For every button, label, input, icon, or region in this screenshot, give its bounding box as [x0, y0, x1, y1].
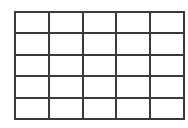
grid-cell [151, 34, 185, 55]
grid-cell [151, 13, 185, 34]
grid-cell [151, 99, 185, 120]
grid-cell [151, 56, 185, 77]
grid-cell [16, 77, 50, 98]
grid-cell [117, 77, 151, 98]
grid-cell [117, 99, 151, 120]
grid-cell [84, 56, 118, 77]
grid-cell [16, 99, 50, 120]
grid-cell [50, 77, 84, 98]
empty-grid-table [14, 11, 185, 120]
grid-cell [50, 56, 84, 77]
grid-cell [117, 13, 151, 34]
grid-cell [50, 34, 84, 55]
grid-cell [117, 34, 151, 55]
grid-cell [84, 34, 118, 55]
grid-cell [16, 13, 50, 34]
grid-cell [84, 13, 118, 34]
grid-cell [50, 99, 84, 120]
grid-cell [84, 99, 118, 120]
grid-cell [16, 34, 50, 55]
grid-cell [84, 77, 118, 98]
grid-cell [117, 56, 151, 77]
grid-cell [50, 13, 84, 34]
grid-cell [151, 77, 185, 98]
grid-cell [16, 56, 50, 77]
